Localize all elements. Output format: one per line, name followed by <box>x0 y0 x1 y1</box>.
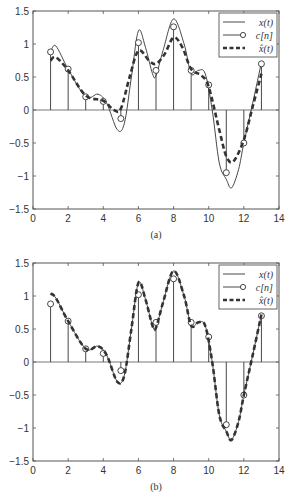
x-tick-label: 4 <box>101 465 107 476</box>
chart-panel-a: 02468101214−1.5−1−0.500.511.5x(t)c[n]x̂(… <box>0 0 296 252</box>
stem-marker <box>118 368 124 374</box>
y-tick-label: 1.5 <box>15 6 29 17</box>
x-tick-label: 12 <box>238 465 250 476</box>
y-tick-label: 1.5 <box>15 258 29 269</box>
y-tick-label: 0 <box>23 105 29 116</box>
x-tick-label: 14 <box>273 465 285 476</box>
stem-marker <box>135 40 141 46</box>
legend: x(t)c[n]x̂(t) <box>219 13 277 57</box>
x-tick-label: 8 <box>171 213 177 224</box>
panel-caption: (a) <box>150 229 161 241</box>
legend-x-label: x(t) <box>258 17 274 29</box>
x-tick-label: 2 <box>65 213 71 224</box>
y-tick-label: −1 <box>18 171 30 182</box>
y-tick-label: 0 <box>23 357 29 368</box>
y-tick-label: −1 <box>18 423 30 434</box>
x-tick-label: 14 <box>273 213 285 224</box>
stem-marker <box>48 301 54 307</box>
x-tick-label: 0 <box>30 213 36 224</box>
x-tick-label: 6 <box>136 465 142 476</box>
stem-marker <box>153 67 159 73</box>
stem-marker <box>171 24 177 30</box>
panel-caption: (b) <box>150 481 162 493</box>
x-tick-label: 8 <box>171 465 177 476</box>
x-tick-label: 10 <box>203 465 215 476</box>
chart-a-svg: 02468101214−1.5−1−0.500.511.5x(t)c[n]x̂(… <box>0 0 296 252</box>
x-tick-label: 4 <box>101 213 107 224</box>
y-tick-label: −1.5 <box>9 456 29 467</box>
y-tick-label: 0.5 <box>15 324 29 335</box>
x-tick-label: 10 <box>203 213 215 224</box>
legend-xhat-label: x̂(t) <box>258 295 274 307</box>
y-tick-label: −0.5 <box>9 390 29 401</box>
stem-marker <box>48 49 54 55</box>
y-tick-label: 1 <box>23 291 29 302</box>
legend-x-label: x(t) <box>258 269 274 281</box>
chart-panel-b: 02468101214−1.5−1−0.500.511.5x(t)c[n]x̂(… <box>0 252 296 504</box>
circle-marker-icon <box>240 32 245 37</box>
y-tick-label: −0.5 <box>9 138 29 149</box>
legend-c-label: c[n] <box>256 282 273 293</box>
x-tick-label: 2 <box>65 465 71 476</box>
x-tick-label: 6 <box>136 213 142 224</box>
stem-marker <box>258 61 264 67</box>
y-tick-label: −1.5 <box>9 204 29 215</box>
chart-b-svg: 02468101214−1.5−1−0.500.511.5x(t)c[n]x̂(… <box>0 252 296 504</box>
legend-xhat-label: x̂(t) <box>258 43 274 55</box>
stem-marker <box>118 116 124 122</box>
y-tick-label: 0.5 <box>15 72 29 83</box>
x-tick-label: 0 <box>30 465 36 476</box>
legend-c-label: c[n] <box>256 30 273 41</box>
circle-marker-icon <box>240 284 245 289</box>
x-tick-label: 12 <box>238 213 250 224</box>
legend: x(t)c[n]x̂(t) <box>219 265 277 309</box>
y-tick-label: 1 <box>23 39 29 50</box>
stem-marker <box>223 170 229 176</box>
